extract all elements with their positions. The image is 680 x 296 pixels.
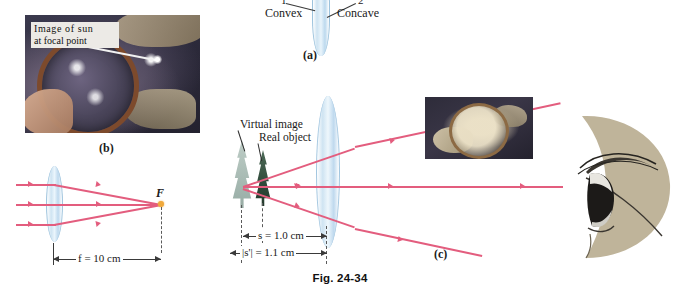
focal-dim-left-arrow-icon [53, 256, 59, 262]
incident-ray-3-arrow-icon [28, 221, 33, 227]
figure-caption: Fig. 24-34 [0, 272, 680, 284]
real-object-label: Real object [259, 131, 311, 143]
focal-dim-right-arrow-icon [155, 256, 161, 262]
photo-sun-image-spot [153, 55, 162, 64]
real-object-leader-line [258, 143, 263, 161]
panel-c-ray-axial [243, 186, 563, 188]
sun-photo-caption-line2: at focal point [34, 35, 116, 47]
photo-rock-top [116, 15, 200, 47]
panel-c-ray-axial-arrow-icon-1 [296, 183, 301, 189]
panel-a-concave-label: Concave [337, 6, 379, 21]
object-distance-right-arrow-icon [321, 233, 327, 239]
refracted-ray-1 [54, 184, 160, 205]
incident-ray-2-arrow-icon [28, 201, 33, 207]
refracted-ray-3 [54, 204, 160, 225]
incident-ray-1-arrow-icon [28, 181, 33, 187]
virtual-image-arrow [232, 140, 252, 208]
panel-c-ray-lower-refracted [355, 228, 482, 257]
focal-length-label: f = 10 cm [76, 252, 123, 264]
virtual-image-label: Virtual image [240, 118, 303, 130]
sun-photo-caption: Image of sun at focal point [31, 22, 119, 48]
refracted-ray-1-arrow-icon [95, 181, 101, 188]
image-distance-label: |s'| = 1.1 cm [240, 246, 296, 258]
incident-ray-1 [16, 184, 56, 186]
panel-a-label: (a) [303, 48, 317, 63]
image-distance-right-arrow-icon [321, 250, 327, 256]
refracted-ray-3-arrow-icon [95, 220, 101, 227]
image-distance-left-arrow-icon [230, 250, 236, 256]
refracted-ray-2-arrow-icon [96, 201, 101, 207]
panel-b-label: (b) [99, 141, 114, 156]
inset-magnifier-glass [449, 103, 509, 159]
eye-illustration [556, 112, 680, 260]
magnifier-over-object-photo [425, 97, 533, 159]
incident-ray-3 [16, 224, 56, 226]
sun-focus-photo: Image of sun at focal point [25, 15, 200, 133]
incident-ray-2 [16, 204, 56, 206]
panel-c-ray-axial-arrow-icon-2 [388, 183, 393, 189]
panel-c-ray-upper-refracted-arrow-icon [389, 137, 395, 144]
object-distance-left-arrow-icon [243, 233, 249, 239]
panel-a-convex-label: Convex [265, 6, 302, 21]
focal-point-dashed-guide [161, 207, 162, 253]
focal-dim-left-tick [53, 243, 54, 265]
panel-c-ray-lower-refracted-arrow-icon [397, 236, 403, 243]
panel-c-ray-axial-arrow-icon-3 [520, 183, 525, 189]
photo-thumb [25, 89, 73, 133]
object-distance-label: s = 1.0 cm [256, 229, 306, 241]
sun-photo-caption-line1: Image of sun [34, 23, 116, 35]
panel-c-label: (c) [434, 247, 447, 262]
panel-c-converging-lens-icon [316, 96, 340, 248]
refracted-ray-2 [54, 204, 160, 206]
eye-svg [556, 112, 680, 260]
focal-point-label: F [156, 186, 164, 201]
